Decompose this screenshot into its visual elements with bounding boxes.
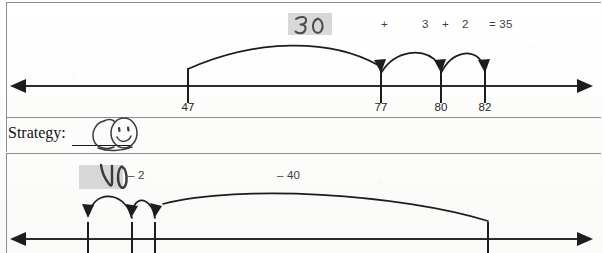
- jump-arrowhead-back-1-icon: [82, 204, 94, 218]
- strategy-label: Strategy:: [8, 124, 66, 142]
- top-tick-label-80: 80: [435, 101, 448, 113]
- top-tick-label-82: 82: [479, 101, 492, 113]
- bottom-problem-panel: – 2 – 40: [0, 156, 603, 253]
- top-tick-label-77: 77: [375, 101, 388, 113]
- top-number-line: [0, 2, 603, 118]
- jump-arc-back-small-1: [82, 196, 132, 218]
- worksheet-page: + 3 + 2 = 35: [0, 0, 603, 253]
- bottom-right-arrowhead-icon: [577, 232, 593, 246]
- top-problem-panel: + 3 + 2 = 35: [0, 2, 603, 116]
- top-right-arrowhead-icon: [577, 79, 593, 93]
- jump-arrowhead-back-40-icon: [150, 203, 162, 217]
- jump-arc-47-to-77: [188, 46, 386, 73]
- jump-arc-back-40: [150, 193, 488, 221]
- jump-arc-80-to-82: [441, 53, 490, 73]
- jump-arrowhead-1-icon: [374, 59, 386, 73]
- strategy-answer-input[interactable]: [72, 124, 136, 146]
- jump-arrowhead-3-icon: [478, 59, 490, 73]
- top-tick-label-47: 47: [182, 101, 195, 113]
- bottom-number-line: [0, 156, 603, 253]
- bottom-left-arrowhead-icon: [10, 232, 26, 246]
- jump-arc-77-to-80: [381, 53, 446, 73]
- top-left-arrowhead-icon: [10, 79, 26, 93]
- strategy-row: Strategy:: [0, 118, 603, 154]
